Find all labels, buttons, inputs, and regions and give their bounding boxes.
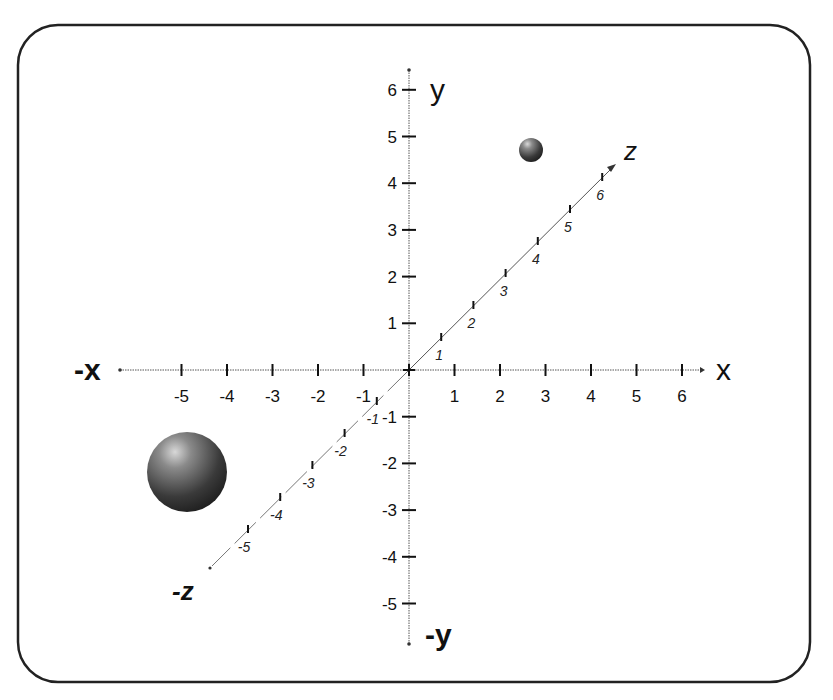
y-axis-positive-label: y — [430, 73, 445, 106]
large-sphere — [147, 432, 227, 512]
z-tick-label: 5 — [564, 219, 572, 235]
diagram-canvas: -5-4-3-2-1123456 x -x 654321-1-2-3-4-5 y… — [0, 0, 833, 700]
diagram-frame — [18, 25, 810, 682]
y-tick-label: -3 — [382, 501, 397, 520]
z-tick-label: 4 — [532, 251, 540, 267]
y-tick-label: -5 — [382, 595, 397, 614]
coordinate-diagram: -5-4-3-2-1123456 x -x 654321-1-2-3-4-5 y… — [0, 0, 833, 700]
z-tick-label: -4 — [270, 507, 283, 523]
z-tick-label: -1 — [367, 411, 379, 427]
z-tick-label: -5 — [238, 539, 251, 555]
x-tick-label: 1 — [450, 387, 459, 406]
x-tick-label: 2 — [495, 387, 504, 406]
y-tick-label: 6 — [388, 81, 397, 100]
y-tick-label: 3 — [388, 221, 397, 240]
y-tick-label: -2 — [382, 454, 397, 473]
x-tick-label: -3 — [265, 387, 280, 406]
x-tick-label: 5 — [632, 387, 641, 406]
z-tick-label: 2 — [467, 315, 476, 331]
y-axis-negative-label: -y — [425, 618, 452, 651]
y-axis-ticks: 654321-1-2-3-4-5 — [382, 81, 416, 614]
y-tick-label: -4 — [382, 548, 397, 567]
x-tick-label: -4 — [219, 387, 234, 406]
z-tick-label: -3 — [302, 475, 315, 491]
x-tick-label: -1 — [356, 387, 371, 406]
x-axis-negative-label: -x — [74, 353, 101, 386]
x-tick-label: -5 — [174, 387, 189, 406]
z-tick-label: -2 — [334, 443, 347, 459]
y-tick-label: 5 — [388, 128, 397, 147]
z-tick-label: 3 — [500, 283, 508, 299]
z-tick-label: 6 — [596, 187, 604, 203]
z-axis-negative-label: -z — [172, 576, 194, 606]
y-tick-label: 1 — [388, 314, 397, 333]
z-tick-label: 1 — [435, 347, 443, 363]
y-tick-label: 2 — [388, 268, 397, 287]
z-axis-positive-label: z — [623, 136, 637, 166]
y-tick-label: 4 — [388, 174, 397, 193]
y-tick-label: -1 — [382, 408, 397, 427]
x-tick-label: 6 — [677, 387, 686, 406]
x-tick-label: 4 — [586, 387, 595, 406]
x-axis: -5-4-3-2-1123456 x -x — [74, 353, 731, 406]
x-tick-label: 3 — [541, 387, 550, 406]
x-tick-label: -2 — [310, 387, 325, 406]
small-sphere — [519, 138, 543, 162]
x-axis-positive-label: x — [716, 353, 731, 386]
